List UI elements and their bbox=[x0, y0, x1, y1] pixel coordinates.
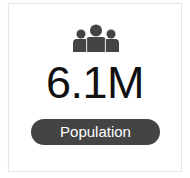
stat-label-badge: Population bbox=[31, 119, 160, 145]
stat-label: Population bbox=[60, 123, 131, 140]
people-group-icon bbox=[72, 24, 120, 52]
stat-value: 6.1M bbox=[0, 58, 190, 108]
